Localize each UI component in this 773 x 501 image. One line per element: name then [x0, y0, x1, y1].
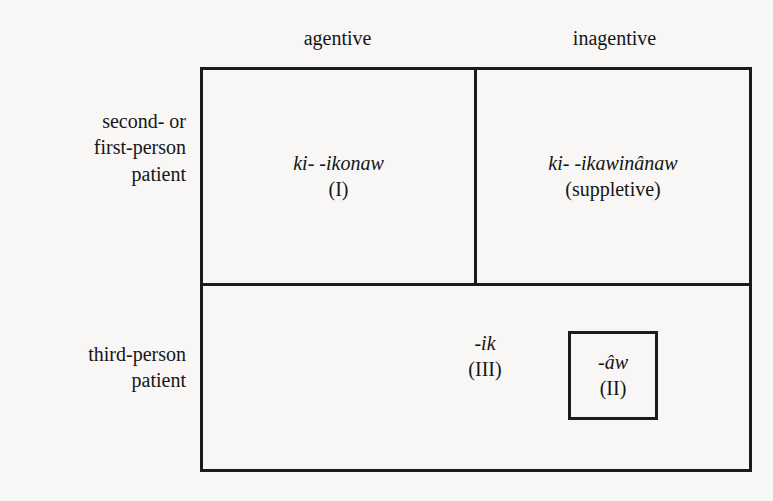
- column-header-inagentive: inagentive: [477, 28, 752, 48]
- form-gloss: (III): [440, 357, 530, 382]
- boxed-form-group-aw: -âw (II): [568, 331, 658, 420]
- form-gloss: (suppletive): [565, 177, 661, 202]
- verb-form: -ik: [440, 331, 530, 355]
- paradigm-figure: agentive inagentive second- or first-per…: [0, 0, 773, 501]
- form-group-ik: -ik (III): [440, 331, 530, 382]
- row-label-second-or-first-person-patient: second- or first-person patient: [0, 108, 186, 187]
- form-gloss: (I): [329, 177, 349, 202]
- form-gloss: (II): [600, 376, 627, 401]
- cell-agentive-second-or-first-person: ki- -ikonaw (I): [203, 70, 474, 283]
- row-label-third-person-patient: third-person patient: [0, 341, 186, 394]
- verb-form: ki- -ikonaw: [293, 151, 384, 175]
- verb-form: ki- -ikawinânaw: [548, 151, 677, 175]
- row-label-line-1: second- or: [0, 108, 186, 134]
- verb-form: -âw: [598, 350, 628, 374]
- row-label-line-2: patient: [0, 367, 186, 393]
- row-label-line-2: first-person: [0, 134, 186, 160]
- column-header-agentive: agentive: [200, 28, 475, 48]
- cell-inagentive-second-or-first-person: ki- -ikawinânaw (suppletive): [477, 70, 749, 283]
- row-label-line-1: third-person: [0, 341, 186, 367]
- row-label-line-3: patient: [0, 161, 186, 187]
